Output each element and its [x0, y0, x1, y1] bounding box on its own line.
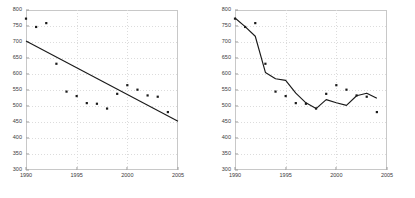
- right-x-tick-label: 1995: [280, 170, 292, 179]
- right-y-tick-label: 550: [222, 87, 235, 93]
- right-y-tick-label: 650: [222, 55, 235, 61]
- right-data-point: [335, 84, 337, 86]
- right-y-tick-label: 350: [222, 151, 235, 157]
- right-y-tick-label: 750: [222, 23, 235, 29]
- left-y-tick-label: 800: [13, 7, 26, 13]
- right-y-tick-label: 600: [222, 71, 235, 77]
- left-data-point: [136, 89, 138, 91]
- left-y-tick-label: 700: [13, 39, 26, 45]
- left-chart-panel: 300350400450500550600650700750800 199019…: [0, 0, 207, 198]
- left-data-point: [45, 22, 47, 24]
- right-data-point: [264, 63, 266, 65]
- right-data-point: [366, 96, 368, 98]
- right-data-point: [325, 93, 327, 95]
- left-data-layer: [26, 10, 178, 170]
- left-data-point: [96, 103, 98, 105]
- left-y-tick-label: 400: [13, 135, 26, 141]
- right-x-tick-label: 2000: [330, 170, 342, 179]
- left-x-tick-label: 2000: [121, 170, 133, 179]
- right-y-tick-label: 700: [222, 39, 235, 45]
- left-data-point: [106, 107, 108, 109]
- right-data-point: [345, 89, 347, 91]
- left-data-point: [147, 94, 149, 96]
- left-x-tick-label: 1990: [20, 170, 32, 179]
- left-y-tick-label: 600: [13, 71, 26, 77]
- left-data-point: [157, 96, 159, 98]
- left-data-point: [167, 111, 169, 113]
- right-y-tick-label: 800: [222, 7, 235, 13]
- left-y-tick-label: 450: [13, 119, 26, 125]
- right-y-tick-label: 400: [222, 135, 235, 141]
- left-data-point: [55, 63, 57, 65]
- right-plot-area: 300350400450500550600650700750800 199019…: [235, 10, 387, 170]
- right-x-tick-label: 2005: [381, 170, 393, 179]
- right-chart-panel: 300350400450500550600650700750800 199019…: [207, 0, 415, 198]
- right-data-point: [295, 102, 297, 104]
- right-data-point: [376, 111, 378, 113]
- right-data-point: [254, 22, 256, 24]
- left-data-point: [65, 91, 67, 93]
- two-panel-scatter-figure: 300350400450500550600650700750800 199019…: [0, 0, 415, 198]
- right-data-point: [285, 95, 287, 97]
- right-y-tick-label: 450: [222, 119, 235, 125]
- left-data-point: [126, 84, 128, 86]
- left-data-point: [116, 93, 118, 95]
- left-data-point: [76, 95, 78, 97]
- right-data-layer: [235, 10, 387, 170]
- left-y-tick-label: 350: [13, 151, 26, 157]
- left-x-tick-label: 2005: [172, 170, 184, 179]
- right-data-point: [274, 91, 276, 93]
- left-x-tick-label: 1995: [71, 170, 83, 179]
- left-data-point: [35, 26, 37, 28]
- left-y-tick-label: 650: [13, 55, 26, 61]
- left-data-point: [86, 102, 88, 104]
- left-y-tick-label: 750: [13, 23, 26, 29]
- right-y-tick-label: 500: [222, 103, 235, 109]
- left-y-tick-label: 550: [13, 87, 26, 93]
- left-y-tick-label: 500: [13, 103, 26, 109]
- left-plot-area: 300350400450500550600650700750800 199019…: [26, 10, 178, 170]
- left-linear-trend: [26, 41, 178, 121]
- right-x-tick-label: 1990: [229, 170, 241, 179]
- left-data-point: [25, 18, 27, 20]
